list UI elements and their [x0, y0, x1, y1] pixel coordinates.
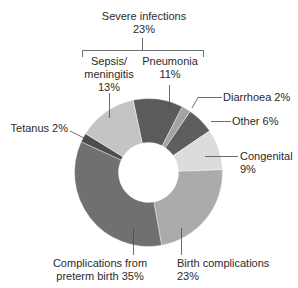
diarrhoea-label-text: Diarrhoea 2% [223, 91, 290, 103]
donut-slices [74, 99, 222, 247]
preterm-label-line1: Complications from [40, 257, 160, 270]
other-label-text: Other 6% [232, 115, 278, 127]
preterm-label: Complications from preterm birth 35% [40, 257, 160, 283]
preterm-label-line2: preterm birth 35% [40, 270, 160, 283]
birth-label-line1: Birth complications [177, 257, 269, 270]
sepsis-label-line3: 13% [78, 81, 140, 94]
other-label: Other 6% [232, 115, 278, 128]
diarrhoea-label: Diarrhoea 2% [223, 91, 290, 104]
slice-birth-complications [154, 170, 223, 246]
congenital-label: Congenital 9% [240, 150, 293, 176]
tetanus-label: Tetanus 2% [8, 122, 68, 135]
pneumonia-label: Pneumonia 11% [140, 55, 200, 81]
sepsis-label-line1: Sepsis/ [78, 55, 140, 68]
birth-label-line2: 23% [177, 270, 269, 283]
donut-chart [0, 0, 298, 288]
severe-infections-label: Severe infections 23% [92, 10, 196, 36]
sepsis-label-line2: meningitis [78, 68, 140, 81]
tetanus-label-text: Tetanus 2% [11, 122, 68, 134]
birth-label: Birth complications 23% [177, 257, 269, 283]
congenital-label-line2: 9% [240, 163, 293, 176]
pneumonia-label-line2: 11% [140, 68, 200, 81]
congenital-label-line1: Congenital [240, 150, 293, 163]
severe-infections-value: 23% [92, 23, 196, 36]
diarrhoea-leader [192, 98, 222, 109]
sepsis-label: Sepsis/ meningitis 13% [78, 55, 140, 94]
severe-infections-title: Severe infections [92, 10, 196, 23]
tetanus-leader [70, 131, 84, 138]
pneumonia-label-line1: Pneumonia [140, 55, 200, 68]
